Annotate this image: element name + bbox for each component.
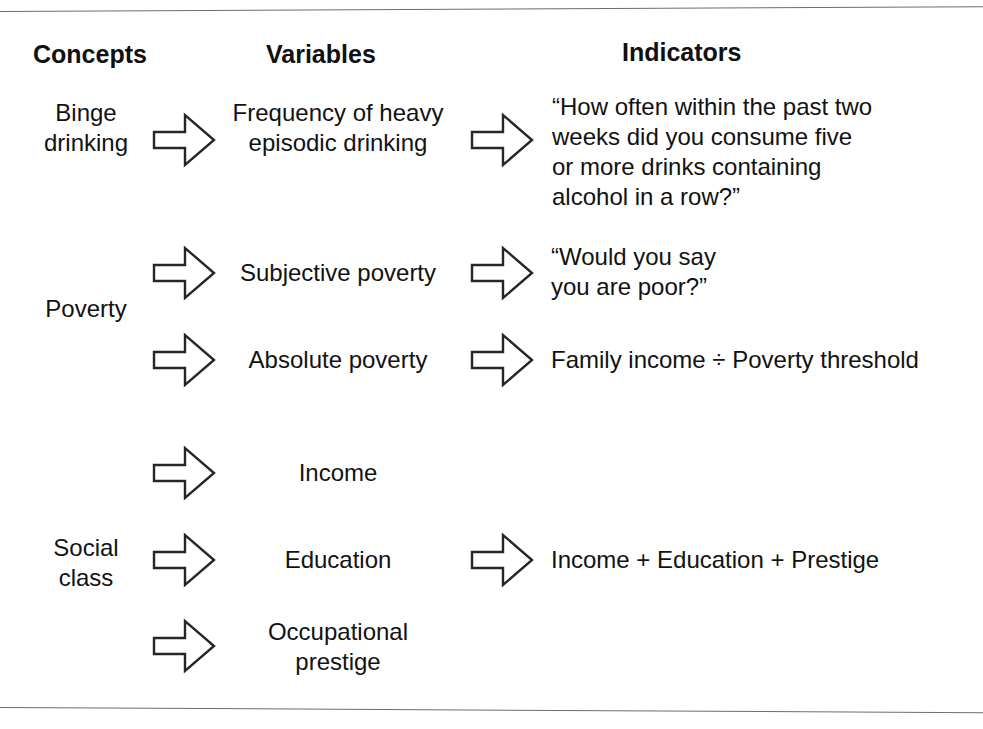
indicator-text-absolute-poverty-formula: Family income ÷ Poverty threshold xyxy=(551,345,971,375)
figure-canvas: Concepts Variables Indicators Binge drin… xyxy=(0,0,983,729)
variable-label-income: Income xyxy=(222,458,454,488)
block-arrow-right-icon xyxy=(152,618,216,674)
indicator-text-binge-drinking-question: “How often within the past two weeks did… xyxy=(552,92,952,212)
variable-label-frequency-heavy-episodic-drinking: Frequency of heavy episodic drinking xyxy=(222,98,454,158)
block-arrow-right-icon xyxy=(152,245,216,301)
bottom-divider-rule xyxy=(0,707,983,713)
column-header-variables: Variables xyxy=(266,40,376,69)
block-arrow-right-icon xyxy=(470,332,534,388)
concept-label-binge-drinking: Binge drinking xyxy=(25,98,147,158)
block-arrow-right-icon xyxy=(152,112,216,168)
variable-label-occupational-prestige: Occupational prestige xyxy=(222,617,454,677)
block-arrow-right-icon xyxy=(470,532,534,588)
block-arrow-right-icon xyxy=(470,245,534,301)
variable-label-subjective-poverty: Subjective poverty xyxy=(222,258,454,288)
variable-label-education: Education xyxy=(222,545,454,575)
indicator-text-subjective-poverty-question: “Would you say you are poor?” xyxy=(551,242,881,302)
block-arrow-right-icon xyxy=(152,532,216,588)
column-header-indicators: Indicators xyxy=(622,38,741,67)
top-divider-rule xyxy=(0,6,983,12)
concept-label-poverty: Poverty xyxy=(25,294,147,324)
variable-label-absolute-poverty: Absolute poverty xyxy=(222,345,454,375)
concept-label-social-class: Social class xyxy=(25,533,147,593)
block-arrow-right-icon xyxy=(152,332,216,388)
column-header-concepts: Concepts xyxy=(33,40,147,69)
block-arrow-right-icon xyxy=(470,112,534,168)
block-arrow-right-icon xyxy=(152,445,216,501)
indicator-text-social-class-formula: Income + Education + Prestige xyxy=(551,545,971,575)
